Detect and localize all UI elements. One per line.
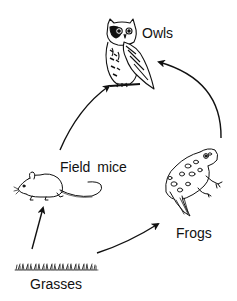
grasses-label: Grasses <box>30 277 82 291</box>
grass-icon <box>0 0 237 301</box>
food-chain-diagram: Owls Field mice <box>0 0 237 301</box>
